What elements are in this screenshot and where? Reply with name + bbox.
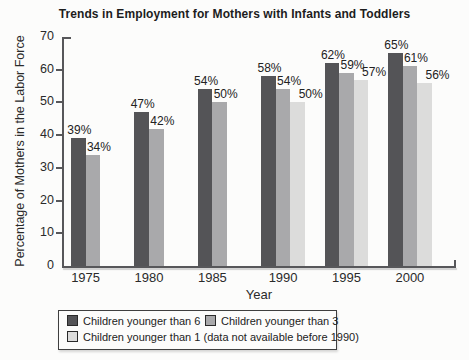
bar: [388, 53, 403, 266]
y-axis-line: [62, 37, 64, 268]
legend-swatch-dark: [67, 315, 78, 326]
y-axis-top-tick: [64, 37, 71, 39]
x-category-label: 1980: [119, 270, 179, 285]
y-tick: [56, 69, 62, 71]
legend-label: Children younger than 3: [221, 315, 338, 327]
bar: [403, 66, 418, 266]
bar: [198, 89, 213, 266]
y-tick-label: 20: [22, 193, 54, 207]
bar: [354, 80, 369, 266]
bar-value-label: 65%: [378, 38, 414, 52]
y-tick: [56, 101, 62, 103]
bar: [212, 102, 227, 266]
bar-value-label: 47%: [125, 97, 161, 111]
bar-value-label: 61%: [398, 51, 434, 65]
x-category-label: 1975: [56, 270, 116, 285]
bar: [276, 89, 291, 266]
y-tick-label: 40: [22, 127, 54, 141]
bar: [134, 112, 149, 266]
y-tick-label: 10: [22, 225, 54, 239]
bar-value-label: 50%: [293, 87, 329, 101]
bar-value-label: 42%: [144, 114, 180, 128]
chart-title: Trends in Employment for Mothers with In…: [0, 7, 469, 21]
legend: Children younger than 6 Children younger…: [58, 310, 337, 350]
x-axis-label: Year: [62, 287, 456, 302]
x-axis-line: [62, 266, 456, 268]
legend-label: Children younger than 1 (data not availa…: [83, 331, 359, 343]
x-axis-end-tick: [454, 260, 456, 266]
legend-item-children-younger-than-3: Children younger than 3: [205, 315, 338, 328]
chart-figure: Trends in Employment for Mothers with In…: [0, 0, 469, 360]
bar-value-label: 57%: [356, 65, 392, 79]
bar-value-label: 54%: [271, 74, 307, 88]
legend-label: Children younger than 6: [83, 315, 200, 327]
x-category-label: 1995: [317, 270, 377, 285]
y-tick-label: 60: [22, 62, 54, 76]
bar: [339, 73, 354, 266]
y-tick-label: 30: [22, 160, 54, 174]
y-tick: [56, 232, 62, 234]
legend-item-children-younger-than-6: Children younger than 6: [67, 315, 200, 328]
bar-value-label: 39%: [61, 123, 97, 137]
bar-value-label: 54%: [188, 74, 224, 88]
bar: [290, 102, 305, 266]
bar: [149, 129, 164, 266]
y-tick-label: 70: [22, 29, 54, 43]
legend-swatch-medium: [205, 315, 216, 326]
bar-value-label: 34%: [81, 140, 117, 154]
bar: [417, 83, 432, 266]
bar: [261, 76, 276, 266]
y-tick: [56, 200, 62, 202]
bar: [325, 63, 340, 266]
y-tick: [56, 167, 62, 169]
legend-item-children-younger-than-1: Children younger than 1 (data not availa…: [67, 331, 359, 344]
bar: [71, 138, 86, 266]
y-tick-label: 50: [22, 94, 54, 108]
x-category-label: 1985: [182, 270, 242, 285]
bar-value-label: 50%: [208, 87, 244, 101]
x-category-label: 1990: [253, 270, 313, 285]
bar-value-label: 58%: [252, 61, 288, 75]
y-tick-label: 0: [22, 258, 54, 272]
legend-swatch-light: [67, 331, 78, 342]
bar-value-label: 56%: [420, 68, 456, 82]
x-category-label: 2000: [380, 270, 440, 285]
bar: [86, 155, 101, 266]
